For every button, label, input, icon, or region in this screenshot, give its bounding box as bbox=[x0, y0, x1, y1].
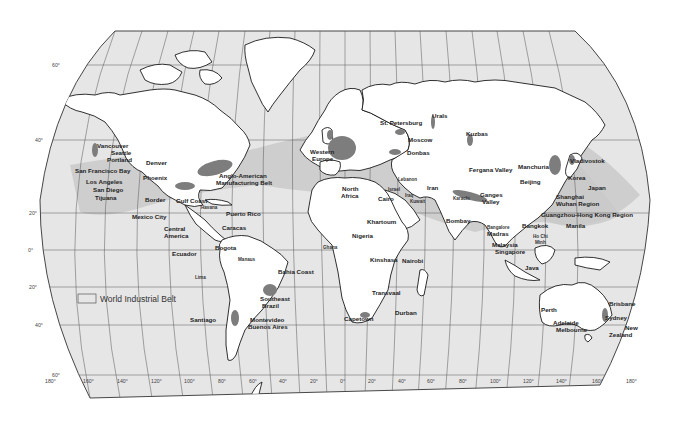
svg-text:Melbourne: Melbourne bbox=[556, 326, 588, 333]
svg-text:Durban: Durban bbox=[395, 309, 417, 316]
svg-text:60°: 60° bbox=[52, 62, 60, 68]
svg-text:Buenos Aires: Buenos Aires bbox=[248, 323, 288, 330]
svg-text:Anglo-American: Anglo-American bbox=[219, 172, 267, 179]
svg-text:Urals: Urals bbox=[432, 112, 448, 119]
svg-text:Tijuana: Tijuana bbox=[95, 194, 117, 201]
svg-text:New: New bbox=[625, 324, 638, 331]
svg-text:Minh: Minh bbox=[535, 240, 546, 245]
svg-text:20°: 20° bbox=[310, 378, 318, 384]
svg-text:Ghana: Ghana bbox=[323, 245, 338, 250]
svg-text:Manila: Manila bbox=[566, 222, 586, 229]
svg-text:Manchuria: Manchuria bbox=[518, 163, 550, 170]
svg-text:20°: 20° bbox=[29, 210, 37, 216]
svg-text:Malaysia: Malaysia bbox=[492, 241, 518, 248]
svg-text:0°: 0° bbox=[340, 378, 345, 384]
svg-text:Moscow: Moscow bbox=[408, 136, 433, 143]
svg-text:Lima: Lima bbox=[195, 275, 206, 280]
svg-text:Israel: Israel bbox=[388, 187, 400, 192]
svg-text:Kinshasa: Kinshasa bbox=[370, 256, 398, 263]
svg-text:North: North bbox=[342, 185, 359, 192]
svg-text:Shanghai: Shanghai bbox=[556, 193, 584, 200]
svg-text:140°: 140° bbox=[556, 378, 567, 384]
svg-text:America: America bbox=[164, 232, 189, 239]
svg-text:Europe: Europe bbox=[312, 155, 334, 162]
svg-text:Khartoum: Khartoum bbox=[367, 218, 397, 225]
svg-text:120°: 120° bbox=[523, 378, 534, 384]
svg-text:Kuzbas: Kuzbas bbox=[466, 130, 489, 137]
svg-text:Wuhan Region: Wuhan Region bbox=[556, 200, 599, 207]
svg-text:Western: Western bbox=[310, 148, 335, 155]
svg-text:Lebanon: Lebanon bbox=[398, 177, 417, 182]
svg-text:Guangzhou-Hong Kong Region: Guangzhou-Hong Kong Region bbox=[541, 211, 633, 218]
world-industrial-belt-map: 60° 40° 20° 0° 20° 40° 60° 180° 160° 140… bbox=[0, 0, 683, 421]
svg-text:160°: 160° bbox=[592, 378, 603, 384]
svg-text:60°: 60° bbox=[249, 378, 257, 384]
svg-text:Ho Chi: Ho Chi bbox=[533, 234, 548, 239]
svg-text:40°: 40° bbox=[398, 378, 406, 384]
svg-text:Manaus: Manaus bbox=[238, 257, 256, 262]
svg-text:0°: 0° bbox=[28, 247, 33, 253]
svg-text:Mexico City: Mexico City bbox=[132, 213, 167, 220]
svg-text:St. Petersburg: St. Petersburg bbox=[380, 119, 423, 126]
svg-text:Ecuador: Ecuador bbox=[172, 250, 197, 257]
iberia bbox=[320, 160, 340, 175]
svg-text:Bogota: Bogota bbox=[215, 244, 237, 251]
svg-text:180°: 180° bbox=[45, 378, 56, 384]
svg-text:20°: 20° bbox=[368, 378, 376, 384]
svg-text:60°: 60° bbox=[427, 378, 435, 384]
svg-text:Bahia Coast: Bahia Coast bbox=[278, 268, 314, 275]
svg-text:Sydney: Sydney bbox=[605, 314, 628, 321]
svg-text:160°: 160° bbox=[83, 378, 94, 384]
svg-text:Zealand: Zealand bbox=[609, 331, 633, 338]
svg-text:Santiago: Santiago bbox=[190, 316, 216, 323]
legend: World Industrial Belt bbox=[78, 294, 177, 304]
svg-text:Capetown: Capetown bbox=[344, 315, 374, 322]
svg-text:Brisbane: Brisbane bbox=[609, 300, 636, 307]
svg-text:San Francisco Bay: San Francisco Bay bbox=[75, 167, 131, 174]
svg-text:Manufacturing Belt: Manufacturing Belt bbox=[216, 179, 272, 186]
svg-text:Gulf Coast: Gulf Coast bbox=[176, 197, 207, 204]
svg-text:Valley: Valley bbox=[482, 198, 500, 205]
new-zealand bbox=[637, 320, 646, 332]
svg-text:Phoenix: Phoenix bbox=[143, 174, 168, 181]
svg-text:Montevideo: Montevideo bbox=[250, 316, 285, 323]
svg-text:Ganges: Ganges bbox=[480, 191, 503, 198]
legend-label: World Industrial Belt bbox=[100, 294, 177, 304]
svg-text:Fergana Valley: Fergana Valley bbox=[469, 166, 513, 173]
svg-text:Iran: Iran bbox=[427, 184, 439, 191]
svg-text:Border: Border bbox=[145, 196, 166, 203]
svg-text:80°: 80° bbox=[459, 378, 467, 384]
svg-text:Southeast: Southeast bbox=[260, 295, 290, 302]
svg-text:San Diego: San Diego bbox=[93, 186, 123, 193]
svg-text:Bangkok: Bangkok bbox=[522, 222, 549, 229]
svg-text:Iraq: Iraq bbox=[405, 193, 414, 198]
svg-text:Cairo: Cairo bbox=[378, 195, 394, 202]
svg-text:Japan: Japan bbox=[588, 184, 606, 191]
legend-swatch bbox=[78, 294, 96, 303]
svg-text:40°: 40° bbox=[279, 378, 287, 384]
svg-text:Seattle: Seattle bbox=[111, 149, 132, 156]
svg-text:Vancouver: Vancouver bbox=[97, 142, 129, 149]
antarctica bbox=[400, 391, 432, 398]
svg-text:Caracas: Caracas bbox=[222, 224, 247, 231]
svg-text:Transvaal: Transvaal bbox=[372, 289, 401, 296]
svg-text:120°: 120° bbox=[151, 378, 162, 384]
svg-text:100°: 100° bbox=[184, 378, 195, 384]
svg-text:Puerto Rico: Puerto Rico bbox=[226, 210, 261, 217]
svg-text:Nairobi: Nairobi bbox=[402, 257, 424, 264]
svg-text:Madras: Madras bbox=[487, 230, 509, 237]
svg-text:180°: 180° bbox=[626, 378, 637, 384]
svg-text:Vladivostok: Vladivostok bbox=[570, 157, 605, 164]
svg-text:Portland: Portland bbox=[107, 156, 132, 163]
svg-text:100°: 100° bbox=[490, 378, 501, 384]
svg-text:Adelaide: Adelaide bbox=[553, 319, 579, 326]
svg-text:Java: Java bbox=[525, 264, 539, 271]
svg-text:40°: 40° bbox=[35, 137, 43, 143]
svg-text:Denver: Denver bbox=[146, 159, 168, 166]
svg-text:140°: 140° bbox=[117, 378, 128, 384]
svg-text:Karachi: Karachi bbox=[453, 196, 470, 201]
svg-text:20°: 20° bbox=[29, 284, 37, 290]
svg-text:Bombay: Bombay bbox=[446, 217, 471, 224]
svg-text:Los Angeles: Los Angeles bbox=[86, 178, 123, 185]
svg-text:Kuwait: Kuwait bbox=[410, 199, 426, 204]
